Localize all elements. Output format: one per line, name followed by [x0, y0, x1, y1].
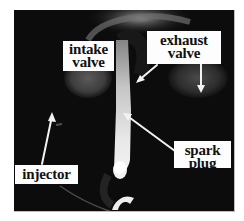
intake-valve-label-line2: valve: [63, 56, 114, 69]
injector-arrow: [42, 116, 52, 164]
annotated-engine-photo: intake valve exhaust valve spark plug in…: [0, 0, 244, 221]
exhaust-valve-label: exhaust valve: [147, 31, 221, 64]
spark-plug-label-line2: plug: [174, 157, 231, 168]
injector-arrowhead: [48, 112, 56, 122]
spark-plug-label: spark plug: [174, 141, 231, 168]
injector-label: injector: [15, 165, 78, 184]
injector-label-line1: injector: [15, 168, 78, 181]
intake-valve-label: intake valve: [63, 41, 114, 71]
exhaust-valve-shape: [168, 58, 228, 98]
spark-plug-streak: [114, 40, 131, 174]
exhaust-valve-label-line2: valve: [147, 47, 221, 60]
spark-plug-arrow: [126, 115, 175, 151]
lower-reflection: [112, 197, 134, 211]
